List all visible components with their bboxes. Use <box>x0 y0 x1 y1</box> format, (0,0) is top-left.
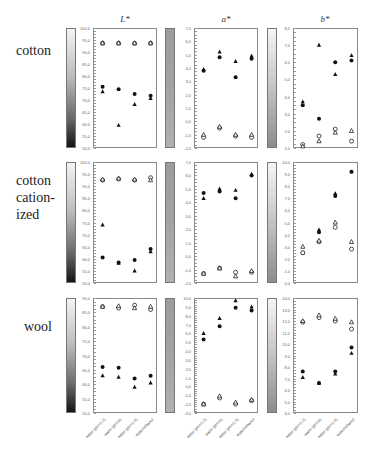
filled-circle-marker <box>350 345 354 349</box>
filled-triangle-marker <box>301 375 305 379</box>
open-triangle-marker <box>333 316 337 320</box>
open-circle-marker <box>350 327 354 331</box>
markers <box>0 0 374 457</box>
filled-circle-marker <box>301 370 305 374</box>
open-triangle-marker <box>317 313 321 317</box>
filled-triangle-marker <box>349 351 353 355</box>
open-triangle-marker <box>301 319 305 323</box>
open-triangle-marker <box>349 320 353 324</box>
